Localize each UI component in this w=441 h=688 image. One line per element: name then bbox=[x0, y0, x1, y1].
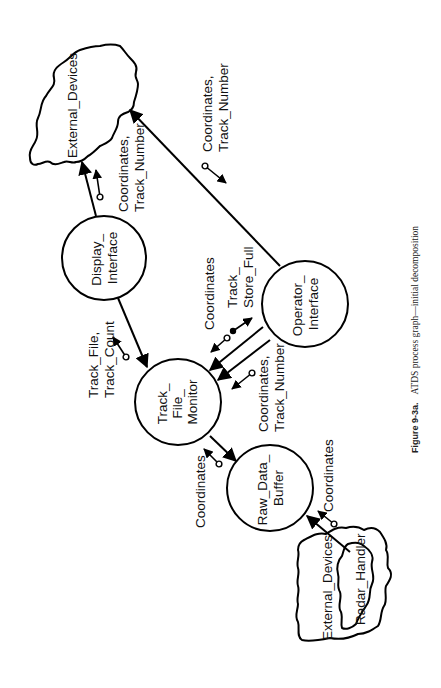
flow-label-track-store-full-2: Store_Full bbox=[241, 246, 256, 308]
svg-text:Track_File, Track_Count: Track_File, Track_Count bbox=[86, 321, 117, 398]
svg-text:Coordinates, Track_Number: Coordinates, Track_Number bbox=[116, 123, 147, 212]
flow-arrow-operator-to-external bbox=[205, 166, 226, 183]
flow-label-monitor-display-1: Track_File, bbox=[86, 332, 101, 398]
track-file-monitor-label-3: Monitor bbox=[185, 379, 200, 425]
process-graph: External_Devices Display_ Interface Oper… bbox=[0, 0, 441, 688]
flow-arrow-operator-coords-to-monitor bbox=[232, 373, 252, 389]
flow-label-track-store-full-1: Track_ bbox=[225, 267, 240, 308]
external-devices-bottom-label: External_Devices bbox=[320, 535, 335, 640]
flow-label-coordinates-monitor-operator: Coordinates bbox=[202, 257, 217, 330]
raw-data-buffer-process: Raw_Data_ Buffer bbox=[227, 445, 313, 531]
flow-label-operator-external-2: Track_Number bbox=[216, 63, 231, 152]
edge-monitor-buffer bbox=[210, 436, 236, 461]
operator-interface-process: Operator_ Interface bbox=[262, 261, 348, 347]
flow-label-monitor-display-2: Track_Count bbox=[102, 321, 117, 398]
edge-display-monitor bbox=[118, 298, 147, 367]
svg-text:Operator_ Interface: Operator_ Interface bbox=[290, 272, 321, 337]
external-devices-top-label: External_Devices bbox=[65, 53, 80, 158]
flow-arrow-coordinates-to-monitor bbox=[211, 338, 227, 352]
flow-label-radar-buffer: Coordinates bbox=[321, 439, 336, 512]
radar-handler-label: Radar_Handler bbox=[353, 533, 368, 625]
track-file-monitor-label-1: Track_ bbox=[155, 383, 170, 424]
flow-label-buffer-monitor: Coordinates bbox=[193, 455, 208, 528]
edge-display-to-external bbox=[82, 162, 96, 216]
flow-arrow-track-store-full bbox=[233, 318, 252, 331]
svg-text:Track_ Store_Full: Track_ Store_Full bbox=[225, 246, 256, 308]
flow-label-operator-external-1: Coordinates, bbox=[200, 75, 215, 152]
raw-data-buffer-label-1: Raw_Data_ bbox=[255, 454, 270, 525]
operator-interface-label-2: Interface bbox=[306, 278, 321, 331]
track-file-monitor-label-2: File_ bbox=[170, 389, 185, 419]
figure-caption: Figure 9-3a. ATDS process graph—initial … bbox=[404, 226, 421, 453]
flow-arrow-display-to-external bbox=[96, 170, 100, 197]
display-interface-label-2: Interface bbox=[105, 232, 120, 285]
flow-label-display-external-2: Track_Number bbox=[132, 123, 147, 212]
figure-caption-label: Figure 9-3a. bbox=[410, 402, 420, 453]
svg-text:Coordinates, Track_Number: Coordinates, Track_Number bbox=[200, 63, 231, 152]
flow-label-operator-monitor-coords-2: Track_Number bbox=[272, 343, 287, 432]
svg-text:Display_ Interface: Display_ Interface bbox=[89, 230, 120, 286]
display-interface-process: Display_ Interface bbox=[62, 216, 146, 300]
flow-label-operator-monitor-coords-1: Coordinates, bbox=[256, 355, 271, 432]
display-interface-label-1: Display_ bbox=[89, 234, 104, 286]
external-devices-bottom-terminator: External_Devices Radar_Handler bbox=[296, 527, 391, 641]
svg-text:Figure 9-3a. ATDS proces: Figure 9-3a. ATDS process graph—initial … bbox=[404, 226, 421, 453]
operator-interface-label-1: Operator_ bbox=[290, 275, 305, 336]
flow-label-display-external-1: Coordinates, bbox=[116, 135, 131, 212]
svg-text:Coordinates, Track_Number: Coordinates, Track_Number bbox=[256, 343, 287, 432]
figure-caption-text: ATDS process graph—initial decomposition bbox=[410, 226, 420, 395]
svg-text:Track_ File_ Monit: Track_ File_ Monitor bbox=[155, 379, 200, 425]
raw-data-buffer-label-2: Buffer bbox=[271, 470, 286, 506]
track-file-monitor-process: Track_ File_ Monitor bbox=[135, 359, 221, 445]
